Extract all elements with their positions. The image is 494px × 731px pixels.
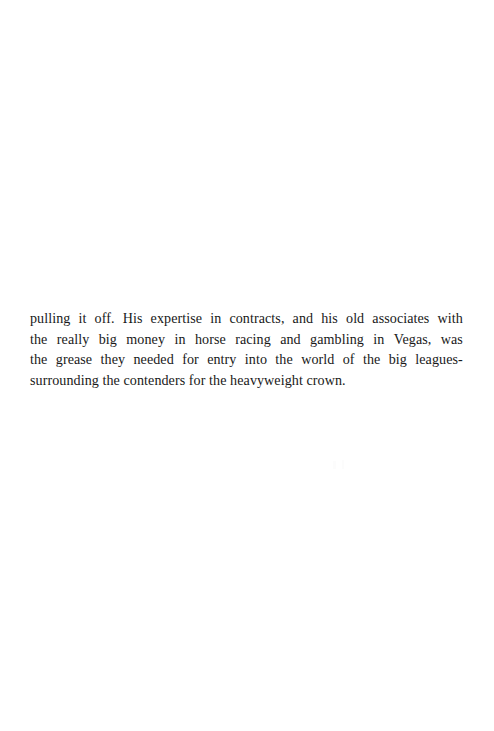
word: big xyxy=(389,349,407,370)
word: money xyxy=(126,329,165,350)
word: associates xyxy=(372,308,429,329)
word: in xyxy=(174,329,185,350)
scan-speckle xyxy=(333,461,336,469)
word: and xyxy=(293,308,314,329)
word: with xyxy=(438,308,463,329)
word: the xyxy=(30,329,47,350)
word: in xyxy=(373,329,384,350)
word: the xyxy=(30,349,47,370)
word: needed xyxy=(133,349,173,370)
word: Vegas, xyxy=(394,329,432,350)
word: big xyxy=(99,329,117,350)
scan-speckle xyxy=(342,460,344,469)
word: it xyxy=(79,308,87,329)
word: they xyxy=(101,349,126,370)
word: off. xyxy=(95,308,115,329)
word: of xyxy=(343,349,355,370)
body-paragraph: pulling it off. His expertise in contrac… xyxy=(30,308,463,390)
scanned-page: pulling it off. His expertise in contrac… xyxy=(0,0,494,731)
word: in xyxy=(210,308,221,329)
word: his xyxy=(321,308,338,329)
text-line-3: the grease they needed for entry into th… xyxy=(30,349,463,370)
word: grease xyxy=(56,349,92,370)
word: the xyxy=(363,349,380,370)
text-line-2: the really big money in horse racing and… xyxy=(30,329,463,350)
word: racing xyxy=(235,329,271,350)
text-line-1: pulling it off. His expertise in contrac… xyxy=(30,308,463,329)
word: really xyxy=(57,329,90,350)
word: contracts, xyxy=(229,308,284,329)
word: old xyxy=(346,308,364,329)
word: gambling xyxy=(310,329,364,350)
word: was xyxy=(441,329,463,350)
word: expertise xyxy=(151,308,203,329)
word: for xyxy=(182,349,199,370)
word: horse xyxy=(195,329,226,350)
word: leagues- xyxy=(415,349,463,370)
word: entry xyxy=(207,349,236,370)
word: pulling xyxy=(30,308,70,329)
word: His xyxy=(123,308,143,329)
word: the xyxy=(275,349,292,370)
word: world xyxy=(301,349,334,370)
word: and xyxy=(280,329,301,350)
text-line-4: surrounding the contenders for the heavy… xyxy=(30,370,463,391)
word: into xyxy=(245,349,267,370)
